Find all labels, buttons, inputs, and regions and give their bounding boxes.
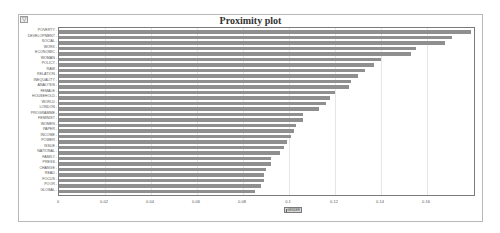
bar-raw[interactable]: [59, 69, 365, 73]
bar-london[interactable]: [59, 107, 319, 111]
y-label: WOMAN -: [41, 56, 57, 61]
bar-relation[interactable]: [59, 74, 358, 78]
y-label: SOCIAL -: [42, 39, 57, 44]
x-tick-label: 0.04: [146, 199, 154, 204]
y-label: FEMALE -: [40, 89, 57, 94]
bar-programme[interactable]: [59, 113, 303, 117]
y-label: FEMINIST -: [38, 116, 57, 121]
y-label: DEVELOPMENT -: [28, 34, 57, 39]
y-label: ANALYSIS -: [37, 83, 57, 88]
bar-focus[interactable]: [59, 179, 264, 183]
bar-national[interactable]: [59, 151, 280, 155]
bar-poverty[interactable]: [59, 30, 471, 34]
bar-work[interactable]: [59, 47, 416, 51]
y-label: INEQUALITY -: [34, 78, 58, 83]
bar-social[interactable]: [59, 41, 445, 45]
bar-female[interactable]: [59, 91, 335, 95]
x-tick-label: 0.14: [376, 199, 384, 204]
bar-issue[interactable]: [59, 146, 284, 150]
bar-inequality[interactable]: [59, 80, 351, 84]
y-label: RAW -: [47, 67, 57, 72]
y-label: POLICY -: [42, 61, 57, 66]
y-label: PAPER -: [43, 127, 57, 132]
y-label: ISSUE -: [44, 144, 57, 149]
bar-global[interactable]: [59, 190, 255, 194]
y-label: READ -: [45, 171, 57, 176]
bar-development[interactable]: [59, 36, 452, 40]
bar-family[interactable]: [59, 157, 271, 161]
y-label: POVERTY -: [38, 28, 57, 33]
y-label: INCOME -: [40, 133, 57, 138]
y-label: LONDON -: [39, 105, 57, 110]
x-tick-label: 0.06: [192, 199, 200, 204]
y-label: FOCUS -: [42, 177, 57, 182]
x-tick-label: 0.02: [100, 199, 108, 204]
y-label: WOMEN -: [41, 122, 57, 127]
y-label: NATIONAL -: [37, 149, 57, 154]
x-tick-label: 0.16: [422, 199, 430, 204]
x-tick-label: 0: [57, 199, 59, 204]
bar-change[interactable]: [59, 168, 266, 172]
y-label: POWER -: [41, 138, 57, 143]
bar-analysis[interactable]: [59, 85, 349, 89]
x-tick-label: 0.1: [285, 199, 291, 204]
bar-woman[interactable]: [59, 58, 381, 62]
bar-policy[interactable]: [59, 63, 374, 67]
bar-feminist[interactable]: [59, 118, 303, 122]
y-label: HOUSEHOLD -: [32, 94, 57, 99]
y-label: ECONOMIC -: [35, 50, 57, 55]
y-label: PROGRAMME -: [31, 111, 57, 116]
plot-area: [58, 27, 475, 196]
bar-women[interactable]: [59, 124, 296, 128]
y-label: GLOBAL -: [41, 188, 57, 193]
bar-income[interactable]: [59, 135, 291, 139]
x-tick-label: 0.12: [330, 199, 338, 204]
bar-household[interactable]: [59, 96, 330, 100]
bar-press[interactable]: [59, 162, 271, 166]
y-label: FAMILY -: [42, 155, 57, 160]
y-label: RELATION -: [37, 72, 57, 77]
bar-paper[interactable]: [59, 129, 294, 133]
bar-power[interactable]: [59, 140, 287, 144]
bar-poor[interactable]: [59, 184, 261, 188]
y-label: PRESS -: [43, 160, 57, 165]
bar-world[interactable]: [59, 102, 326, 106]
legend-label: GENDER: [287, 208, 300, 212]
bar-read[interactable]: [59, 173, 264, 177]
y-label: CHANGE -: [39, 166, 57, 171]
y-label: WORK -: [44, 45, 57, 50]
chart-title: Proximity plot: [18, 15, 483, 26]
y-label: POOR -: [44, 182, 57, 187]
gridline: [427, 28, 428, 195]
legend-item-gender[interactable]: GENDER: [284, 207, 302, 213]
y-label: WORLD -: [41, 100, 57, 105]
bar-economic[interactable]: [59, 52, 411, 56]
x-tick-label: 0.08: [238, 199, 246, 204]
